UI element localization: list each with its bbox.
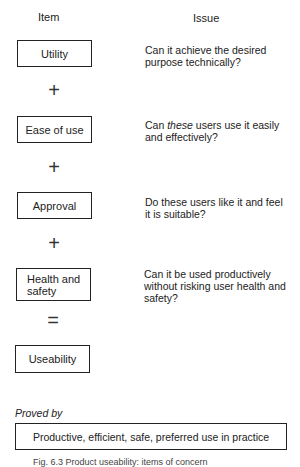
plus-operator-3: +: [17, 233, 91, 253]
useability-label: Useability: [29, 353, 77, 365]
utility-issue: Can it achieve the desired purpose techn…: [145, 44, 285, 68]
utility-box: Utility: [17, 40, 92, 67]
plus-operator-2: +: [17, 157, 91, 177]
proved-by-box: Productive, efficient, safe, preferred u…: [15, 423, 287, 450]
approval-issue: Do these users like it and feel it is su…: [145, 196, 285, 220]
health-and-safety-label-line2: safety: [27, 285, 56, 297]
proved-by-label: Proved by: [15, 407, 62, 419]
issue-text-emphasis: these: [167, 119, 193, 131]
ease-of-use-box: Ease of use: [17, 116, 92, 143]
health-and-safety-box: Health and safety: [16, 268, 91, 301]
ease-of-use-issue: Can these users use it easily and effect…: [145, 119, 285, 143]
useability-box: Useability: [15, 345, 90, 373]
utility-label: Utility: [41, 48, 68, 60]
item-column-header: Item: [38, 11, 59, 23]
equals-operator: =: [16, 310, 90, 330]
issue-column-header: Issue: [193, 12, 219, 24]
approval-label: Approval: [33, 200, 76, 212]
proved-by-text: Productive, efficient, safe, preferred u…: [33, 431, 269, 443]
health-and-safety-label-line1: Health and: [27, 273, 80, 285]
ease-of-use-label: Ease of use: [25, 124, 83, 136]
issue-text-pre: Can: [145, 119, 167, 131]
figure-caption: Fig. 6.3 Product useability: items of co…: [33, 457, 208, 467]
plus-operator-1: +: [17, 80, 91, 100]
approval-box: Approval: [17, 192, 92, 219]
health-and-safety-issue: Can it be used productively without risk…: [144, 268, 294, 304]
